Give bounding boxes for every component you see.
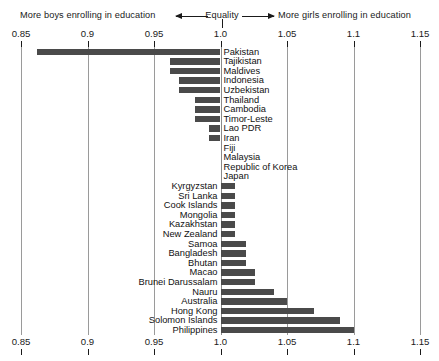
bar[interactable] [221, 317, 341, 324]
arrow-left-icon [176, 16, 208, 17]
axis-tick-label: 0.85 [12, 28, 31, 39]
bar[interactable] [195, 97, 220, 104]
axis-tick-label: 1.1 [347, 28, 360, 39]
bar[interactable] [170, 68, 221, 75]
chart-row[interactable]: Kazakhstan [0, 220, 439, 230]
chart-row[interactable]: Tajikistan [0, 57, 439, 67]
chart-row[interactable]: Brunei Darussalam [0, 277, 439, 287]
chart-row[interactable]: Solomon Islands [0, 316, 439, 326]
category-label: Philippines [173, 326, 218, 335]
bar[interactable] [221, 202, 236, 209]
chart-row[interactable]: Hong Kong [0, 306, 439, 316]
bar[interactable] [221, 298, 288, 305]
equality-marker [222, 19, 223, 28]
bar[interactable] [195, 116, 220, 123]
chart-row[interactable]: Thailand [0, 95, 439, 105]
axis-tick-label: 1.05 [278, 28, 297, 39]
bar[interactable] [37, 49, 221, 56]
axis-tick-mark [21, 349, 22, 355]
chart-row[interactable]: Republic of Korea [0, 162, 439, 172]
chart-row[interactable]: Indonesia [0, 76, 439, 86]
chart-row[interactable]: Bhutan [0, 258, 439, 268]
bar[interactable] [209, 135, 221, 142]
axis-top: 0.850.90.951.01.051.11.15 [0, 28, 439, 48]
chart-row[interactable]: Maldives [0, 66, 439, 76]
chart-row[interactable]: Samoa [0, 239, 439, 249]
bar[interactable] [221, 260, 246, 267]
bar[interactable] [221, 327, 354, 334]
arrow-right-icon [242, 16, 274, 17]
axis-tick-label: 1.0 [214, 336, 227, 347]
bar[interactable] [179, 87, 220, 94]
chart-row[interactable]: Malaysia [0, 153, 439, 163]
plot-area: PakistanTajikistanMaldivesIndonesiaUzbek… [0, 47, 439, 335]
bar[interactable] [179, 77, 220, 84]
axis-tick-label: 0.95 [145, 336, 164, 347]
chart-row[interactable]: Australia [0, 297, 439, 307]
category-label: Japan [224, 172, 249, 181]
category-label: Uzbekistan [224, 86, 270, 95]
chart-row[interactable]: Iran [0, 133, 439, 143]
chart-row[interactable]: Timor-Leste [0, 114, 439, 124]
bar[interactable] [221, 212, 236, 219]
axis-tick-label: 1.15 [411, 28, 430, 39]
bar[interactable] [221, 241, 246, 248]
chart-row[interactable]: Fiji [0, 143, 439, 153]
axis-tick-label: 0.95 [145, 28, 164, 39]
axis-tick-mark [354, 349, 355, 355]
axis-tick-label: 0.85 [12, 336, 31, 347]
header-left-annotation: More boys enrolling in education [20, 10, 155, 20]
bar[interactable] [221, 289, 274, 296]
chart-row[interactable]: Cambodia [0, 105, 439, 115]
chart-header: More boys enrolling in education Equalit… [0, 8, 439, 26]
header-right-annotation: More girls enrolling in education [278, 10, 411, 20]
axis-tick-mark [221, 349, 222, 355]
bar[interactable] [221, 269, 256, 276]
axis-tick-mark [88, 349, 89, 355]
chart-row[interactable]: Sri Lanka [0, 191, 439, 201]
chart-row[interactable]: Lao PDR [0, 124, 439, 134]
chart-row[interactable]: Macao [0, 268, 439, 278]
chart-row[interactable]: Nauru [0, 287, 439, 297]
bar[interactable] [221, 221, 236, 228]
bar[interactable] [209, 125, 221, 132]
bar[interactable] [221, 308, 314, 315]
axis-tick-label: 0.9 [81, 336, 94, 347]
axis-tick-label: 1.15 [411, 336, 430, 347]
chart-row[interactable]: Pakistan [0, 47, 439, 57]
chart-row[interactable]: Uzbekistan [0, 85, 439, 95]
bar[interactable] [221, 250, 246, 257]
axis-tick-mark [420, 349, 421, 355]
chart-row[interactable]: Japan [0, 172, 439, 182]
chart-row[interactable]: Kyrgyzstan [0, 181, 439, 191]
chart-row[interactable]: New Zealand [0, 229, 439, 239]
bar[interactable] [221, 193, 236, 200]
category-label: Iran [224, 134, 240, 143]
axis-tick-label: 1.05 [278, 336, 297, 347]
bar[interactable] [221, 279, 256, 286]
chart-row[interactable]: Bangladesh [0, 249, 439, 259]
bar[interactable] [221, 231, 236, 238]
chart-row[interactable]: Mongolia [0, 210, 439, 220]
axis-tick-label: 0.9 [81, 28, 94, 39]
axis-tick-label: 1.1 [347, 336, 360, 347]
bar[interactable] [170, 58, 221, 65]
chart-row[interactable]: Cook Islands [0, 201, 439, 211]
bar[interactable] [195, 106, 220, 113]
axis-bottom: 0.850.90.951.01.051.11.15 [0, 336, 439, 356]
axis-tick-label: 1.0 [214, 28, 227, 39]
bar[interactable] [221, 183, 236, 190]
chart-row[interactable]: Philippines [0, 325, 439, 335]
axis-tick-mark [287, 349, 288, 355]
gender-parity-index-chart: More boys enrolling in education Equalit… [0, 0, 439, 361]
axis-tick-mark [154, 349, 155, 355]
